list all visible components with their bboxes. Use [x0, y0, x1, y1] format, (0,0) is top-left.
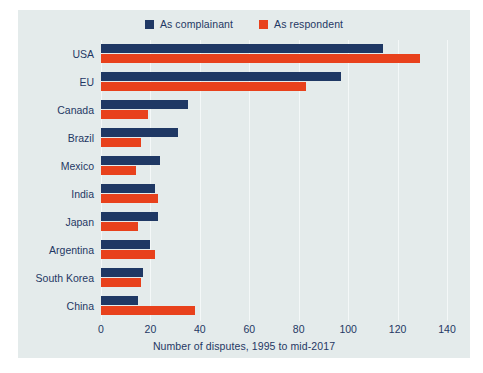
- y-axis-label: Brazil: [68, 132, 94, 144]
- chart-legend: As complainantAs respondent: [18, 18, 470, 30]
- bar-row: Canada: [101, 96, 447, 124]
- bar-complainant: [101, 72, 341, 81]
- bar-respondent: [101, 138, 141, 147]
- bar-respondent: [101, 82, 306, 91]
- bar-respondent: [101, 110, 148, 119]
- bar-complainant: [101, 184, 155, 193]
- bar-complainant: [101, 128, 178, 137]
- bar-respondent: [101, 278, 141, 287]
- legend-label: As complainant: [160, 18, 233, 30]
- bar-row: Mexico: [101, 152, 447, 180]
- bar-respondent: [101, 166, 136, 175]
- bar-row: Brazil: [101, 124, 447, 152]
- bar-row: EU: [101, 68, 447, 96]
- bar-respondent: [101, 250, 155, 259]
- bar-respondent: [101, 222, 138, 231]
- bar-complainant: [101, 296, 138, 305]
- bar-complainant: [101, 156, 160, 165]
- chart-panel: As complainantAs respondent USAEUCanadaB…: [18, 10, 470, 358]
- x-tick-label: 20: [145, 323, 157, 335]
- bar-row: China: [101, 292, 447, 320]
- legend-square-swatch: [259, 20, 268, 29]
- x-axis-title: Number of disputes, 1995 to mid-2017: [18, 340, 470, 352]
- y-axis-label: Argentina: [49, 244, 94, 256]
- bar-complainant: [101, 212, 158, 221]
- bar-row: South Korea: [101, 264, 447, 292]
- x-tick-label: 80: [293, 323, 305, 335]
- y-axis-label: India: [71, 188, 94, 200]
- y-axis-label: EU: [79, 76, 94, 88]
- bar-complainant: [101, 240, 150, 249]
- bar-row: Argentina: [101, 236, 447, 264]
- y-axis-label: USA: [72, 48, 94, 60]
- x-tick-label: 120: [389, 323, 407, 335]
- x-tick-label: 0: [98, 323, 104, 335]
- bar-respondent: [101, 54, 420, 63]
- bar-complainant: [101, 268, 143, 277]
- y-axis-label: Japan: [65, 216, 94, 228]
- legend-item: As complainant: [145, 18, 233, 30]
- y-axis-label: China: [67, 300, 94, 312]
- legend-label: As respondent: [274, 18, 343, 30]
- x-axis-ticks: 020406080100120140: [101, 323, 447, 339]
- legend-square-swatch: [145, 20, 154, 29]
- bar-respondent: [101, 194, 158, 203]
- bar-row: India: [101, 180, 447, 208]
- x-tick-label: 60: [243, 323, 255, 335]
- x-tick-label: 140: [438, 323, 456, 335]
- y-axis-label: South Korea: [36, 272, 94, 284]
- plot-area: USAEUCanadaBrazilMexicoIndiaJapanArgenti…: [101, 40, 447, 321]
- bar-complainant: [101, 44, 383, 53]
- y-axis-label: Canada: [57, 104, 94, 116]
- bar-complainant: [101, 100, 188, 109]
- x-tick-label: 100: [339, 323, 357, 335]
- x-tick-label: 40: [194, 323, 206, 335]
- bar-respondent: [101, 306, 195, 315]
- bar-row: USA: [101, 40, 447, 68]
- y-axis-label: Mexico: [61, 160, 94, 172]
- bar-row: Japan: [101, 208, 447, 236]
- gridline: [447, 40, 448, 321]
- bar-rows: USAEUCanadaBrazilMexicoIndiaJapanArgenti…: [101, 40, 447, 321]
- legend-item: As respondent: [259, 18, 343, 30]
